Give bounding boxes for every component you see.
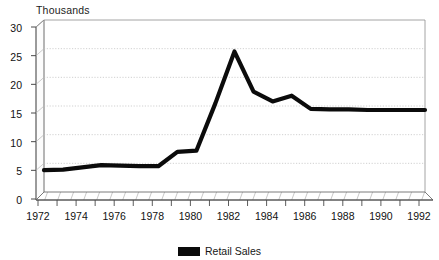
x-tick-label: 1974 — [64, 211, 87, 222]
x-tick-label: 1984 — [255, 211, 278, 222]
x-tick-label: 1990 — [369, 211, 392, 222]
x-tick-label: 1976 — [103, 211, 126, 222]
chart-x-tick-labels: 1972197419761978198019821984198619881990… — [0, 0, 439, 260]
legend-label-retail-sales: Retail Sales — [205, 245, 261, 257]
x-tick-label: 1980 — [179, 211, 202, 222]
x-tick-label: 1992 — [407, 211, 430, 222]
x-tick-label: 1982 — [217, 211, 240, 222]
chart-container: Thousands — [0, 0, 439, 260]
legend-swatch-retail-sales — [178, 247, 200, 256]
x-tick-label: 1986 — [293, 211, 316, 222]
x-tick-label: 1988 — [331, 211, 354, 222]
chart-legend: Retail Sales — [0, 245, 439, 257]
x-tick-label: 1978 — [141, 211, 164, 222]
x-tick-label: 1972 — [26, 211, 49, 222]
